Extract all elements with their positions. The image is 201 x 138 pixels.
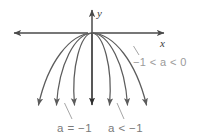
x-axis-label: x [159, 37, 165, 49]
figure-canvas: y x a = −1 a < −1 −1 < a < 0 [0, 0, 201, 138]
label-a-less-than-minus-one: a < −1 [108, 122, 143, 134]
leader-line-less-than-minus-one [117, 103, 124, 119]
curve-7 [92, 33, 147, 105]
leader-line-equal-minus-one [65, 103, 73, 119]
leader-line-between [134, 46, 140, 55]
leader-lines [65, 46, 140, 119]
y-axis-label: y [96, 7, 102, 19]
curve-3 [74, 33, 92, 105]
curve-5 [92, 33, 110, 105]
axes-group [14, 10, 164, 33]
parabola-family-figure: y x a = −1 a < −1 −1 < a < 0 [0, 0, 201, 138]
curve-family [39, 33, 147, 105]
label-a-between-minus-one-and-zero: −1 < a < 0 [133, 56, 187, 68]
curve-1 [39, 33, 93, 105]
label-a-equals-minus-one: a = −1 [57, 122, 92, 134]
